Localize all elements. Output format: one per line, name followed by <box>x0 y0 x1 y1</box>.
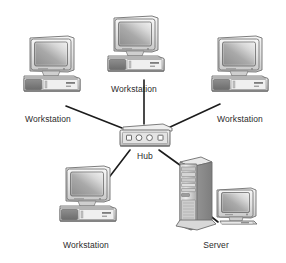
workstation-top-label: Workstation <box>111 84 157 94</box>
workstation-bottom-left-label: Workstation <box>63 240 109 250</box>
desktop-computer-icon <box>60 166 116 221</box>
server-label: Server <box>203 240 229 250</box>
node-workstation-left[interactable]: Workstation <box>24 36 80 124</box>
desktop-computer-icon <box>212 36 268 91</box>
hub-label: Hub <box>137 151 153 161</box>
workstation-left-label: Workstation <box>25 114 71 124</box>
node-server[interactable]: Server <box>176 157 257 250</box>
desktop-computer-icon <box>108 16 164 71</box>
node-hub[interactable]: Hub <box>120 124 172 161</box>
network-hub-icon <box>120 124 172 146</box>
diagram-canvas: Workstation Workstation Workstation Work… <box>0 0 286 263</box>
node-workstation-right[interactable]: Workstation <box>212 36 268 124</box>
network-topology-diagram: Workstation Workstation Workstation Work… <box>0 0 286 263</box>
node-workstation-bottom-left[interactable]: Workstation <box>60 166 116 250</box>
workstation-right-label: Workstation <box>217 114 263 124</box>
desktop-computer-icon <box>24 36 80 91</box>
tower-server-icon <box>176 157 216 230</box>
link-hub-to-workstation-right <box>168 104 220 128</box>
server-monitor-icon <box>217 188 257 224</box>
node-workstation-top[interactable]: Workstation <box>108 16 164 94</box>
link-hub-to-workstation-left <box>66 106 122 128</box>
